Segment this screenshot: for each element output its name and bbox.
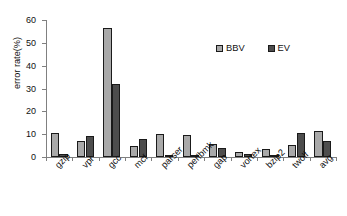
y-tick-mark: 10 (42, 134, 46, 135)
legend-item-ev: EV (268, 43, 290, 53)
bar-gcc-bbv (103, 28, 111, 157)
bar-gcc-ev (112, 84, 120, 157)
bar-group (314, 20, 331, 157)
x-tick-mark (151, 157, 152, 161)
bar-group (183, 20, 200, 157)
legend-label-ev: EV (278, 43, 290, 53)
y-tick-mark: 40 (42, 66, 46, 67)
legend-swatch-bbv (216, 45, 223, 52)
plot-area: 0102030405060 (46, 20, 336, 157)
y-tick-label: 0 (31, 152, 36, 162)
x-tick-mark (231, 157, 232, 161)
bar-perlbmk-bbv (183, 135, 191, 157)
bar-bzip2-bbv (262, 149, 270, 157)
x-tick-mark (125, 157, 126, 161)
bar-chart: error rate(%) 0102030405060 gzipvprgccmc… (0, 0, 347, 216)
y-tick-label: 60 (26, 15, 36, 25)
chart-legend: BBV EV (216, 43, 290, 53)
legend-swatch-ev (268, 45, 275, 52)
y-tick-label: 30 (26, 84, 36, 94)
y-tick-label: 10 (26, 129, 36, 139)
legend-item-bbv: BBV (216, 43, 245, 53)
bar-group (156, 20, 173, 157)
y-axis-title: error rate(%) (12, 13, 22, 113)
y-tick-label: 20 (26, 106, 36, 116)
x-tick-mark (46, 157, 47, 161)
y-tick-label: 40 (26, 61, 36, 71)
x-tick-mark (336, 157, 337, 161)
bar-vpr-bbv (77, 141, 85, 157)
bar-gzip-bbv (51, 133, 59, 157)
bar-group (288, 20, 305, 157)
x-tick-mark (310, 157, 311, 161)
legend-label-bbv: BBV (226, 43, 245, 53)
y-tick-mark: 30 (42, 89, 46, 90)
bar-group (235, 20, 252, 157)
bar-twolf-bbv (288, 145, 296, 157)
bar-group (262, 20, 279, 157)
bar-vortex-bbv (235, 152, 243, 157)
y-tick-mark: 50 (42, 43, 46, 44)
y-tick-label: 50 (26, 38, 36, 48)
bar-mcf-bbv (130, 146, 138, 157)
x-tick-mark (99, 157, 100, 161)
bar-group (130, 20, 147, 157)
y-tick-mark: 60 (42, 20, 46, 21)
bar-group (77, 20, 94, 157)
bar-parser-bbv (156, 134, 164, 157)
bar-avg-bbv (314, 131, 322, 157)
bar-group (209, 20, 226, 157)
y-tick-mark: 20 (42, 111, 46, 112)
bar-group (51, 20, 68, 157)
y-axis-line (46, 20, 47, 157)
bar-group (103, 20, 120, 157)
